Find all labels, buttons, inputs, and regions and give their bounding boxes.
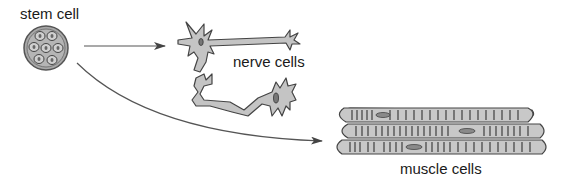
stem-cell-label: stem cell (20, 6, 79, 21)
muscle-cells-icon (337, 108, 546, 154)
stem-cell-icon (24, 26, 68, 70)
diagram-canvas (0, 0, 571, 187)
nerve-cells-label: nerve cells (233, 54, 305, 69)
muscle-cells-label: muscle cells (400, 161, 482, 176)
